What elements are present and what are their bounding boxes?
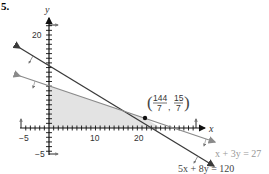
point-y-numerator: 15 [174, 93, 184, 103]
svg-text:): ) [184, 93, 190, 112]
graph: −5 10 20 20 −5 y x ( 144 7 , 15 7 ) x + … [0, 0, 269, 174]
y-tick-20: 20 [32, 30, 42, 40]
x-tick-10: 10 [90, 133, 100, 143]
feasible-region [49, 86, 161, 128]
point-y-denominator: 7 [176, 103, 181, 113]
point-x-denominator: 7 [157, 103, 162, 113]
point-annotation: ( 144 7 , 15 7 ) [147, 93, 190, 113]
x-tick-neg5: −5 [19, 133, 29, 143]
x-axis-label: x [208, 123, 214, 134]
svg-text:,: , [168, 102, 171, 112]
line-label-x-3y-27: x + 3y = 27 [215, 148, 261, 159]
y-tick-neg5: −5 [35, 149, 45, 159]
intersection-point [143, 116, 147, 120]
point-x-numerator: 144 [153, 93, 167, 103]
x-tick-20: 20 [134, 133, 144, 143]
y-axis-label: y [44, 4, 50, 15]
line-label-5x-8y-120: 5x + 8y = 120 [178, 163, 234, 174]
